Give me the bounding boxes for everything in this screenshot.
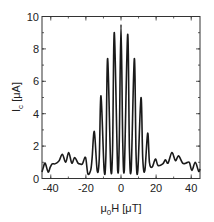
y-axis-label-rest: [μA] xyxy=(10,82,22,105)
y-tick-label: 4 xyxy=(33,108,39,120)
x-axis-label: μ0H [μT] xyxy=(101,202,142,217)
y-tick-label: 6 xyxy=(33,75,39,87)
y-tick-label: 2 xyxy=(33,140,39,152)
chart: -40-20020400246810 Ic [μA] μ0H [μT] xyxy=(0,0,214,222)
x-tick-label: -40 xyxy=(43,182,59,194)
x-tick-label: 20 xyxy=(150,182,162,194)
x-tick-label: 0 xyxy=(118,182,124,194)
x-tick-label: 40 xyxy=(185,182,197,194)
data-line-ic-vs-field xyxy=(42,25,200,175)
y-tick-label: 10 xyxy=(27,11,39,23)
x-tick-label: -20 xyxy=(78,182,94,194)
y-axis-label: Ic [μA] xyxy=(10,82,25,112)
x-axis-label-rest: H [μT] xyxy=(111,202,141,214)
y-tick-label: 8 xyxy=(33,43,39,55)
y-tick-label: 0 xyxy=(33,173,39,185)
